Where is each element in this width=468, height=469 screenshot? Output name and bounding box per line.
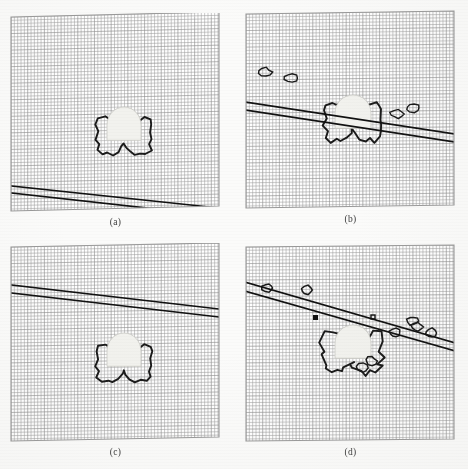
figure-container: (a) (b) (c) (d) xyxy=(0,0,468,469)
panel-c: (c) xyxy=(10,243,221,465)
panel-c-caption: (c) xyxy=(10,447,221,457)
panel-a: (a) xyxy=(10,13,221,235)
panel-d-plot xyxy=(245,243,456,443)
panel-a-plot xyxy=(10,13,221,213)
panel-c-plot xyxy=(10,243,221,443)
panel-d-caption: (d) xyxy=(245,447,456,457)
panel-a-caption: (a) xyxy=(10,217,221,227)
panel-b: (b) xyxy=(245,10,456,232)
panel-d: (d) xyxy=(245,243,456,465)
panel-b-caption: (b) xyxy=(245,214,456,224)
panel-b-plot xyxy=(245,10,456,210)
